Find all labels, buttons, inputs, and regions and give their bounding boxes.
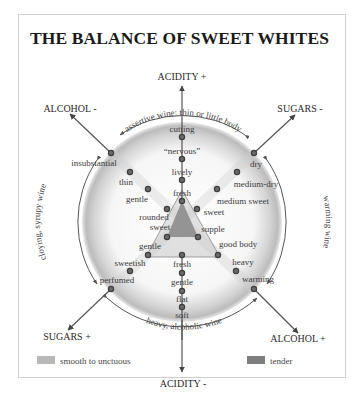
point-perfumed: perfumed — [100, 275, 135, 285]
point-flat: flat — [176, 294, 188, 304]
point-thin: thin — [119, 177, 134, 187]
label-alcohol-minus: ALCOHOL - — [43, 103, 96, 114]
label-acidity-plus: ACIDITY + — [158, 71, 207, 82]
label-alcohol-plus: ALCOHOL + — [270, 333, 326, 344]
point-gentle-sugars: gentle — [139, 241, 161, 251]
point-gentle-upper: gentle — [126, 194, 148, 204]
label-acidity-minus: ACIDITY - — [160, 378, 207, 389]
point-dry: dry — [250, 159, 262, 169]
point-soft: soft — [175, 310, 189, 320]
point-sweet: sweet — [204, 207, 225, 217]
point-rounded-sweet: sweet — [150, 222, 171, 232]
legend-swatch-smooth — [37, 356, 55, 364]
point-medium-sweet: medium sweet — [217, 196, 270, 206]
point-fresh-upper: fresh — [173, 188, 191, 198]
point-medium-dry: medium-dry — [234, 179, 279, 189]
arc-label-right: warming wine — [321, 195, 334, 250]
point-supple: supple — [201, 224, 225, 234]
point-insubstantial: insubstantial — [71, 158, 117, 168]
sugars-minus-arrow — [254, 115, 295, 153]
point-warming: warming — [242, 274, 274, 284]
point-cutting: cutting — [170, 124, 195, 134]
point-gentle-lower: gentle — [171, 277, 193, 287]
sugars-plus-arrow — [68, 289, 111, 330]
legend-swatch-tender — [247, 356, 265, 364]
legend-label-smooth: smooth to unctuous — [60, 356, 131, 366]
point-fresh-lower: fresh — [173, 259, 191, 269]
point-nervous: “nervous” — [164, 146, 200, 156]
point-rounded: rounded — [139, 212, 169, 222]
legend-label-tender: tender — [270, 356, 293, 366]
point-sweetish: sweetish — [115, 258, 146, 268]
alcohol-minus-arrow — [70, 114, 111, 153]
label-sugars-plus: SUGARS + — [43, 331, 91, 342]
point-good-body: good body — [219, 239, 258, 249]
label-sugars-minus: SUGARS - — [277, 103, 322, 114]
point-lively: lively — [172, 167, 193, 177]
point-heavy: heavy — [232, 257, 254, 267]
balance-diagram: ACIDITY + ACIDITY - ALCOHOL - SUGARS - S… — [0, 0, 359, 396]
alcohol-plus-arrow — [254, 289, 298, 333]
arc-label-left: cloying, syrupy wine — [32, 182, 48, 262]
